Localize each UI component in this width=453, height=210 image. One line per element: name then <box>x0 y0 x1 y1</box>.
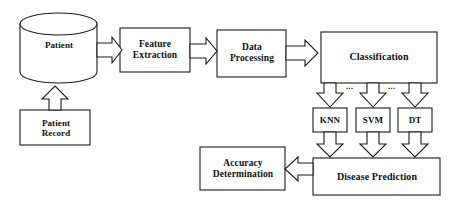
node-feature-extraction-box <box>120 28 190 72</box>
node-data-processing-box <box>217 30 286 77</box>
arrow-classification-to-dt <box>402 83 428 107</box>
node-patient-cylinder <box>20 13 97 83</box>
flowchart-canvas <box>0 0 453 210</box>
node-patient-record-box <box>20 110 90 145</box>
arrow-classification-to-knn <box>317 83 343 107</box>
node-svm-box <box>356 108 390 132</box>
arrow-disease-to-accuracy <box>285 157 313 181</box>
arrow-record-to-patient <box>42 86 68 110</box>
node-disease-prediction-box <box>313 158 440 195</box>
flowchart-diagram: Patient Patient Record Feature Extractio… <box>0 0 453 210</box>
arrow-patient-to-feature <box>97 37 122 63</box>
arrow-dataprocessing-to-classification <box>286 40 318 66</box>
node-accuracy-determination-box <box>200 147 285 190</box>
arrow-dt-to-disease <box>402 132 428 157</box>
arrow-knn-to-disease <box>317 132 343 157</box>
arrow-svm-to-disease <box>360 132 386 157</box>
node-dt-box <box>398 108 432 132</box>
arrow-classification-to-svm <box>360 83 386 107</box>
node-knn-box <box>313 108 347 132</box>
node-classification-box <box>321 32 437 83</box>
arrow-feature-to-dataprocessing <box>190 38 217 64</box>
